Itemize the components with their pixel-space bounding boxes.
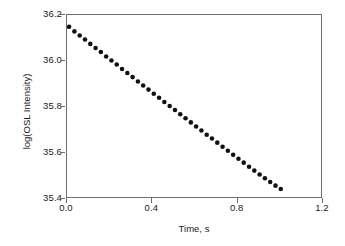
y-tick-mark — [60, 60, 65, 61]
data-point — [146, 87, 151, 92]
data-point — [215, 140, 220, 145]
data-point — [199, 128, 204, 133]
data-point — [67, 25, 71, 30]
data-point — [114, 62, 119, 67]
x-tick-mark — [237, 198, 238, 203]
x-axis-title: Time, s — [66, 223, 322, 234]
data-point — [226, 149, 231, 154]
x-tick-label: 0.4 — [131, 202, 171, 213]
x-tick-label: 0.8 — [217, 202, 257, 213]
data-point — [189, 120, 194, 125]
data-point — [204, 132, 209, 137]
data-point — [252, 168, 257, 173]
y-tick-label: 35.6 — [4, 147, 62, 157]
data-point — [273, 183, 278, 188]
data-point — [99, 50, 104, 55]
data-point — [162, 100, 167, 105]
data-point — [120, 67, 125, 72]
x-tick-label: 0.0 — [46, 202, 86, 213]
data-point — [167, 104, 172, 109]
y-tick-label: 35.8 — [4, 101, 62, 111]
x-tick-mark — [322, 198, 323, 203]
data-point — [83, 37, 88, 42]
y-tick-mark — [60, 198, 65, 199]
chart-figure: 36.236.035.835.635.4 log(OSL Intensity) … — [0, 0, 345, 246]
data-point — [152, 91, 157, 96]
data-point — [157, 96, 162, 101]
y-tick-label: 36.0 — [4, 55, 62, 65]
data-point — [210, 136, 215, 141]
data-point — [279, 187, 284, 192]
data-point — [231, 152, 236, 157]
data-point — [77, 33, 82, 38]
data-point — [130, 75, 135, 80]
data-point — [72, 29, 77, 34]
data-point — [104, 54, 109, 59]
data-point — [268, 180, 273, 185]
data-point — [194, 124, 199, 129]
y-tick-mark — [60, 14, 65, 15]
x-tick-label: 1.2 — [302, 202, 342, 213]
data-point — [263, 176, 268, 181]
y-tick-label: 36.2 — [4, 9, 62, 19]
data-point — [183, 116, 188, 121]
data-point — [236, 157, 241, 162]
data-point — [93, 46, 98, 51]
x-tick-mark — [151, 198, 152, 203]
data-point — [247, 164, 252, 169]
data-point — [257, 172, 262, 177]
y-axis-title: log(OSL Intensity) — [21, 42, 32, 182]
x-tick-mark — [66, 198, 67, 203]
scatter-series — [67, 15, 321, 197]
data-point — [220, 144, 225, 149]
data-point — [88, 42, 93, 47]
data-point — [178, 112, 183, 117]
y-tick-mark — [60, 106, 65, 107]
plot-area — [66, 14, 322, 198]
data-point — [173, 108, 178, 113]
data-point — [109, 58, 114, 63]
data-point — [136, 79, 141, 84]
data-point — [125, 71, 130, 76]
data-point — [241, 160, 246, 165]
y-tick-mark — [60, 152, 65, 153]
data-point — [141, 83, 146, 88]
